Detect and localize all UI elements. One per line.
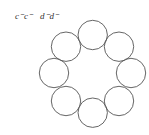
circle-bottom-left <box>51 86 80 115</box>
circle-top-right <box>104 32 133 61</box>
circle-ring-diagram <box>0 0 149 135</box>
circle-top <box>78 20 107 49</box>
circle-bottom-right <box>104 86 133 115</box>
circle-right <box>116 58 145 87</box>
circle-bottom <box>78 98 107 127</box>
circle-top-left <box>51 32 80 61</box>
circle-left <box>39 58 68 87</box>
